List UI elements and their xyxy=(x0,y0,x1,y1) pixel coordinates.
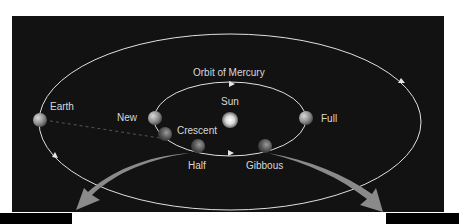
orbit-label: Orbit of Mercury xyxy=(193,67,265,78)
arrow-left-icon xyxy=(76,153,190,210)
sun xyxy=(222,112,238,128)
mercury-new xyxy=(148,111,162,125)
mercury-crescent xyxy=(158,127,172,141)
half-label: Half xyxy=(188,160,206,171)
crescent-label: Crescent xyxy=(177,125,217,136)
full-label: Full xyxy=(321,113,337,124)
sightline xyxy=(44,120,160,138)
arrow-mercury-bottom-icon xyxy=(228,150,234,156)
mercury-gibbous xyxy=(258,139,272,153)
new-label: New xyxy=(117,112,137,123)
orbit-diagram xyxy=(0,0,459,224)
gibbous-label: Gibbous xyxy=(246,160,283,171)
mercury-half xyxy=(191,139,205,153)
mercury-full xyxy=(299,111,313,125)
earth-planet xyxy=(33,113,47,127)
arrow-right-icon xyxy=(268,153,383,212)
sun-label: Sun xyxy=(221,96,239,107)
earth-label: Earth xyxy=(50,101,74,112)
